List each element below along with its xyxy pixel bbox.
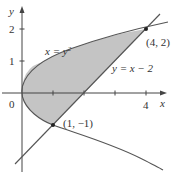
tick-x4-label: 4 bbox=[143, 99, 149, 111]
point-4-2 bbox=[144, 27, 148, 31]
point-1-neg1 bbox=[51, 123, 55, 127]
y-axis-label: y bbox=[8, 5, 14, 17]
x-axis-label: x bbox=[159, 97, 165, 109]
parabola-equation-label: x = y2 bbox=[44, 45, 72, 57]
line-equation-label: y = x − 2 bbox=[111, 62, 154, 74]
figure: y x 0 4 1 2 x = y2 y = x − 2 (4, 2) (1, … bbox=[0, 0, 172, 176]
point-1-neg1-label: (1, −1) bbox=[63, 117, 93, 130]
origin-label: 0 bbox=[9, 98, 15, 110]
x-axis-arrow-icon bbox=[160, 91, 167, 96]
point-4-2-label: (4, 2) bbox=[146, 36, 170, 49]
tick-y1-label: 1 bbox=[9, 55, 15, 67]
shaded-region-fill bbox=[22, 29, 146, 125]
tick-y2-label: 2 bbox=[9, 23, 15, 35]
y-axis-arrow-icon bbox=[20, 6, 25, 13]
